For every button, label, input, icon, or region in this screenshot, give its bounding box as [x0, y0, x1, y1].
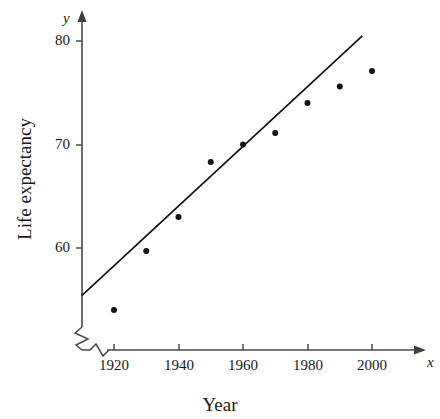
scatter-point — [305, 100, 311, 106]
trend-line — [82, 36, 363, 296]
y-axis-break-zigzag — [75, 327, 88, 350]
x-tick-marks — [114, 344, 372, 350]
y-tick-label-70: 70 — [36, 137, 70, 152]
y-tick-label-60: 60 — [36, 240, 70, 255]
scatter-point — [176, 214, 182, 220]
x-tick-label-2000: 2000 — [342, 358, 402, 373]
y-axis-title: Life expectancy — [14, 64, 36, 294]
scatter-point — [240, 142, 246, 148]
x-tick-label-1940: 1940 — [149, 358, 209, 373]
x-axis-break-zigzag — [82, 344, 109, 356]
x-axis-title: Year — [0, 394, 440, 416]
scatter-point — [337, 84, 343, 90]
scatter-point — [111, 307, 117, 313]
x-axis — [82, 344, 426, 356]
x-axis-symbol: x — [427, 355, 434, 370]
y-tick-marks — [76, 41, 82, 248]
y-tick-label-80: 80 — [36, 33, 70, 48]
scatter-point-group — [111, 68, 375, 313]
scatter-point — [208, 159, 214, 165]
x-tick-label-1960: 1960 — [213, 358, 273, 373]
life-expectancy-scatter-chart: 80 70 60 1920 1940 1960 1980 2000 y x Ye… — [0, 0, 440, 419]
x-tick-label-1980: 1980 — [278, 358, 338, 373]
y-axis — [75, 10, 88, 350]
scatter-point — [369, 68, 375, 74]
x-axis-arrowhead — [414, 346, 426, 355]
scatter-point — [143, 248, 149, 254]
scatter-point — [272, 130, 278, 136]
x-tick-label-1920: 1920 — [84, 358, 144, 373]
y-axis-symbol: y — [63, 11, 70, 26]
